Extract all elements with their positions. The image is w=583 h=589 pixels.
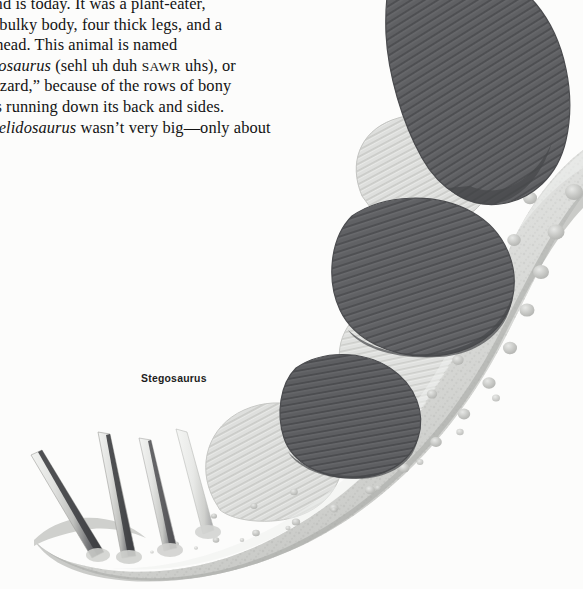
dark-plates: [280, 0, 570, 479]
book-page: ngland is today. It was a plant-eater, i…: [0, 0, 583, 589]
text-line-5: ide lizard,” because of the rows of bony: [0, 76, 296, 97]
figure-caption: Stegosaurus: [141, 373, 207, 384]
light-plates: [206, 114, 493, 521]
text-line-7: Scelidosaurus wasn’t very big—only about: [0, 118, 296, 139]
osteoderm-bumps: [150, 153, 583, 553]
pronunciation-close: uhs), or: [181, 56, 236, 75]
text-line-1: ngland is today. It was a plant-eater,: [0, 0, 296, 15]
text-line-2: ith a bulky body, four thick legs, and a: [0, 15, 296, 36]
tail-spikes: [31, 429, 214, 558]
species-name-italic: celidosaurus: [0, 56, 51, 75]
body-paragraph: ngland is today. It was a plant-eater, i…: [0, 0, 296, 138]
text-line-3: nall head. This animal is named: [0, 35, 296, 56]
species-name-italic-2: Scelidosaurus: [0, 118, 76, 137]
stegosaurus-body: [34, 150, 583, 582]
text-line-7-rest: wasn’t very big—only about: [76, 118, 271, 137]
pronunciation-open: (sehl uh duh: [51, 56, 142, 75]
spike-bases: [86, 525, 221, 564]
pronunciation-smallcaps: SAWR: [142, 59, 181, 74]
text-line-6: umps running down its back and sides.: [0, 97, 296, 118]
text-line-4: celidosaurus (sehl uh duh SAWR uhs), or: [0, 56, 296, 77]
